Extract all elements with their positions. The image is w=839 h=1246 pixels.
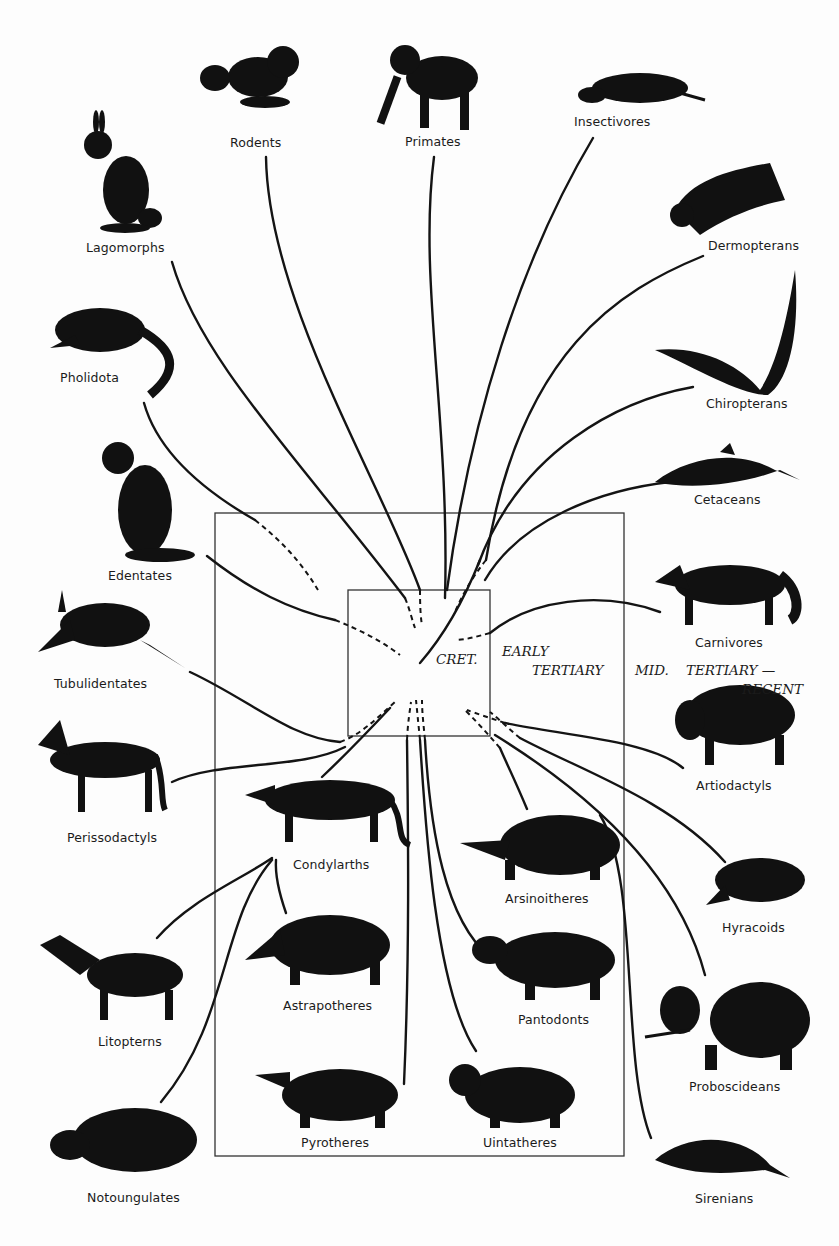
radiation-diagram: CRET. EARLY TERTIARY MID. TERTIARY — REC… [0,0,839,1246]
uintathere-silhouette [449,1064,575,1128]
branch-insectivores [447,138,593,590]
branch-rodents [266,157,420,590]
label-litopterns: Litopterns [98,1034,162,1049]
dermopteran-silhouette [670,163,785,235]
era-label-mid: MID. [635,662,669,678]
branch-carnivores [490,600,660,633]
label-rodents: Rodents [230,135,281,150]
era-label-recent: RECENT [742,681,803,697]
pyrothere-silhouette [255,1069,398,1128]
lagomorph-silhouette [84,110,162,233]
carnivore-silhouette [655,565,797,625]
branch-lines [0,0,839,1246]
branch-condylarths [322,708,390,777]
label-pholidota: Pholidota [60,370,119,385]
branch-lagomorphs [172,262,405,598]
label-astrapotheres: Astrapotheres [283,998,372,1013]
condylarth-silhouette [245,780,410,845]
astrapothere-silhouette [245,915,390,985]
rodent-silhouette [200,46,299,108]
arsinoithere-silhouette [460,815,620,880]
era-label-cretaceous: CRET. [436,651,478,667]
label-pantodonts: Pantodonts [518,1012,589,1027]
label-perissodactyls: Perissodactyls [67,830,157,845]
label-arsinoitheres: Arsinoitheres [505,891,589,906]
tubulidentate-silhouette [38,590,185,668]
label-proboscideans: Proboscideans [689,1079,780,1094]
notoungulate-silhouette [50,1108,197,1172]
branch-sirenians [600,815,651,1138]
branch-arsinoitheres [500,748,527,809]
primate-silhouette [377,45,478,130]
branch-artiodactyls [505,723,683,768]
insectivore-silhouette [578,73,705,103]
pantodont-silhouette [472,932,615,1000]
hyracoid-silhouette [706,858,805,905]
cetacean-silhouette [655,443,800,486]
era-label-early-tertiary: TERTIARY [532,662,604,678]
label-pyrotheres: Pyrotheres [301,1135,369,1150]
label-chiropterans: Chiropterans [706,396,788,411]
label-sirenians: Sirenians [695,1191,753,1206]
label-carnivores: Carnivores [695,635,763,650]
sirenian-silhouette [655,1140,790,1178]
chiropteran-silhouette [655,270,796,395]
label-dermopterans: Dermopterans [708,238,799,253]
perissodactyl-silhouette [38,720,165,812]
label-condylarths: Condylarths [293,857,369,872]
label-primates: Primates [405,134,461,149]
label-tubulidentates: Tubulidentates [54,676,147,691]
label-lagomorphs: Lagomorphs [86,240,165,255]
label-hyracoids: Hyracoids [722,920,785,935]
branch-primates [429,157,445,598]
litoptern-silhouette [40,935,183,1020]
label-notoungulates: Notoungulates [87,1190,180,1205]
proboscidean-silhouette [645,982,810,1070]
branch-tubulidentates [190,672,340,742]
label-artiodactyls: Artiodactyls [696,778,772,793]
era-label-mid-tertiary: TERTIARY — [686,662,775,678]
artiodactyl-silhouette [675,685,795,765]
label-cetaceans: Cetaceans [694,492,761,507]
edentate-silhouette [102,442,195,562]
era-label-early: EARLY [502,643,549,659]
branch-astrapotheres [276,860,286,913]
label-uintatheres: Uintatheres [483,1135,557,1150]
branch-dermopterans [486,256,703,560]
label-edentates: Edentates [108,568,172,583]
branch-chiropterans [478,387,693,565]
label-insectivores: Insectivores [574,114,650,129]
branch-perissodactyls [172,747,345,782]
branch-pyrotheres [404,740,408,1084]
